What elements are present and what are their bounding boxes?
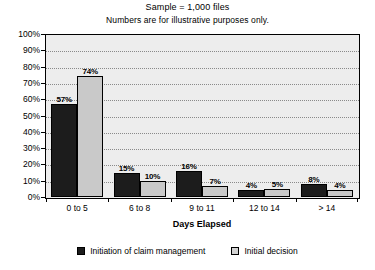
x-axis-category-label: 6 to 8 bbox=[129, 203, 150, 213]
x-axis-tick-mark bbox=[296, 198, 297, 202]
y-axis-tick-mark bbox=[41, 34, 45, 35]
x-axis-tick-mark bbox=[357, 198, 358, 202]
y-axis-tick-label: 20% bbox=[0, 159, 40, 169]
legend-swatch bbox=[231, 247, 239, 255]
y-axis-tick-label: 100% bbox=[0, 29, 40, 39]
title-block: Sample = 1,000 files Numbers are for ill… bbox=[0, 1, 375, 26]
x-axis-category-labels: 0 to 56 to 89 to 1112 to 14> 14 bbox=[46, 203, 358, 217]
bars-layer: 57%74%15%10%16%7%4%5%8%4% bbox=[46, 34, 358, 197]
bar: 16% bbox=[176, 171, 202, 197]
y-axis-tick-mark bbox=[41, 197, 45, 198]
y-axis-tick-label: 80% bbox=[0, 62, 40, 72]
y-axis-tick-mark bbox=[41, 164, 45, 165]
y-axis-tick-label: 70% bbox=[0, 78, 40, 88]
bar: 74% bbox=[77, 76, 103, 197]
y-axis-tick-label: 50% bbox=[0, 111, 40, 121]
bar: 57% bbox=[51, 104, 77, 197]
y-axis-tick-mark bbox=[41, 116, 45, 117]
bar-group: 8%4% bbox=[296, 34, 358, 197]
legend-item: Initial decision bbox=[231, 246, 297, 256]
bar-group: 15%10% bbox=[108, 34, 170, 197]
bar: 15% bbox=[114, 173, 140, 197]
bar: 5% bbox=[264, 189, 290, 197]
x-axis-category-label: 0 to 5 bbox=[67, 203, 88, 213]
x-axis-category-label: 12 to 14 bbox=[249, 203, 280, 213]
bar: 8% bbox=[301, 184, 327, 197]
legend: Initiation of claim managementInitial de… bbox=[0, 246, 375, 256]
bar-value-label: 4% bbox=[334, 181, 345, 190]
y-axis-tick-label: 0% bbox=[0, 192, 40, 202]
bar-value-label: 5% bbox=[272, 180, 283, 189]
bar: 4% bbox=[327, 190, 353, 197]
y-axis-tick-label: 90% bbox=[0, 45, 40, 55]
bar-value-label: 8% bbox=[308, 175, 319, 184]
bar-value-label: 4% bbox=[246, 181, 257, 190]
x-axis-category-label: > 14 bbox=[318, 203, 335, 213]
y-axis-tick-mark bbox=[41, 148, 45, 149]
y-axis-tick-mark bbox=[41, 83, 45, 84]
x-axis-tick-mark bbox=[108, 198, 109, 202]
bar-value-label: 74% bbox=[82, 67, 97, 76]
x-axis-tick-mark bbox=[171, 198, 172, 202]
chart-subtitle: Numbers are for illustrative purposes on… bbox=[0, 14, 375, 26]
x-axis-tick-mark bbox=[46, 198, 47, 202]
bar: 10% bbox=[140, 181, 166, 197]
bar-value-label: 7% bbox=[209, 177, 220, 186]
bar-group: 4%5% bbox=[233, 34, 295, 197]
x-axis-category-label: 9 to 11 bbox=[189, 203, 214, 213]
y-axis-tick-label: 60% bbox=[0, 94, 40, 104]
legend-label: Initiation of claim management bbox=[90, 246, 205, 256]
bar-group: 16%7% bbox=[171, 34, 233, 197]
legend-label: Initial decision bbox=[244, 246, 297, 256]
y-axis-tick-mark bbox=[41, 99, 45, 100]
y-axis-tick-label: 40% bbox=[0, 127, 40, 137]
bar-value-label: 57% bbox=[56, 95, 71, 104]
bar: 4% bbox=[238, 190, 264, 197]
x-axis-tick-mark bbox=[233, 198, 234, 202]
x-axis-title: Days Elapsed bbox=[46, 219, 358, 229]
legend-swatch bbox=[77, 247, 85, 255]
y-axis-tick-mark bbox=[41, 50, 45, 51]
bar-group: 57%74% bbox=[46, 34, 108, 197]
chart-page: Sample = 1,000 files Numbers are for ill… bbox=[0, 0, 375, 270]
legend-item: Initiation of claim management bbox=[77, 246, 205, 256]
y-axis-tick-label: 10% bbox=[0, 176, 40, 186]
y-axis-tick-mark bbox=[41, 132, 45, 133]
y-axis-tick-mark bbox=[41, 181, 45, 182]
bar-value-label: 15% bbox=[119, 164, 134, 173]
bar-value-label: 10% bbox=[145, 172, 160, 181]
y-axis-tick-label: 30% bbox=[0, 143, 40, 153]
y-axis-tick-mark bbox=[41, 67, 45, 68]
bar-value-label: 16% bbox=[181, 162, 196, 171]
chart-title: Sample = 1,000 files bbox=[0, 1, 375, 14]
bar: 7% bbox=[202, 186, 228, 197]
y-axis-labels: 100%90%80%70%60%50%40%30%20%10%0% bbox=[0, 34, 40, 197]
